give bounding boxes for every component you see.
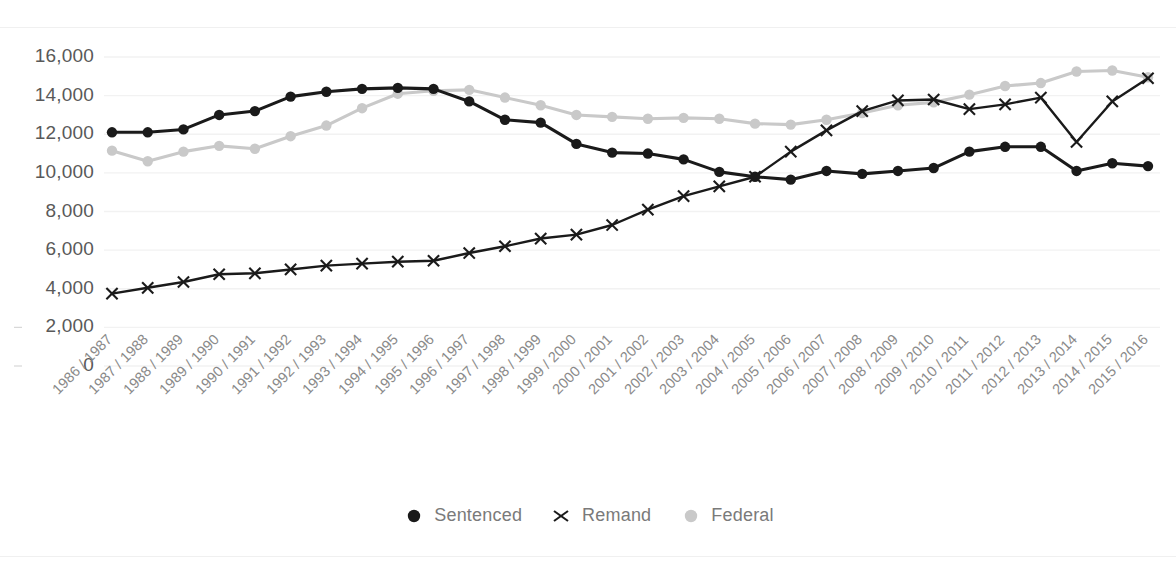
data-point-marker	[678, 113, 688, 123]
gridlines	[104, 57, 1160, 366]
data-point-marker	[821, 115, 831, 125]
data-point-marker	[857, 169, 867, 179]
data-point-marker	[214, 141, 224, 151]
legend-item-sentenced[interactable]: Sentenced	[402, 505, 522, 526]
data-point-marker	[821, 166, 831, 176]
data-point-marker	[321, 87, 331, 97]
chart-container: 16,00014,00012,00010,0008,0006,0004,0002…	[0, 0, 1176, 575]
data-point-marker	[607, 147, 617, 157]
data-point-marker	[678, 154, 688, 164]
data-point-marker	[714, 167, 724, 177]
data-point-marker	[500, 115, 510, 125]
data-point-marker	[1036, 78, 1046, 88]
data-point-marker	[107, 127, 117, 137]
data-point-marker	[750, 118, 760, 128]
data-point-marker	[178, 146, 188, 156]
data-point-marker	[1000, 142, 1010, 152]
data-point-marker	[1071, 136, 1082, 147]
data-point-marker	[1071, 166, 1081, 176]
data-point-marker	[178, 124, 188, 134]
data-point-marker	[1036, 142, 1046, 152]
data-point-marker	[643, 148, 653, 158]
legend-item-remand[interactable]: Remand	[550, 505, 651, 526]
data-point-marker	[214, 110, 224, 120]
legend-item-federal[interactable]: Federal	[679, 505, 773, 526]
legend-label: Sentenced	[434, 505, 522, 526]
data-point-marker	[1000, 81, 1010, 91]
data-point-marker	[714, 114, 724, 124]
data-point-marker	[250, 144, 260, 154]
data-point-marker	[250, 106, 260, 116]
data-point-marker	[571, 139, 581, 149]
data-point-marker	[464, 96, 474, 106]
data-point-marker	[928, 163, 938, 173]
data-point-marker	[964, 89, 974, 99]
data-point-marker	[607, 112, 617, 122]
data-point-marker	[750, 172, 760, 182]
data-point-marker	[535, 117, 545, 127]
data-point-marker	[143, 156, 153, 166]
data-point-marker	[1071, 66, 1081, 76]
data-point-marker	[143, 127, 153, 137]
data-point-marker	[571, 110, 581, 120]
data-point-marker	[535, 100, 545, 110]
data-point-marker	[1107, 96, 1118, 107]
legend-label: Federal	[711, 505, 773, 526]
data-point-marker	[321, 120, 331, 130]
data-point-marker	[428, 84, 438, 94]
data-point-marker	[357, 103, 367, 113]
legend-label: Remand	[582, 505, 651, 526]
data-point-marker	[357, 84, 367, 94]
data-point-marker	[1143, 161, 1153, 171]
legend-circle-marker-icon	[402, 507, 428, 525]
data-point-marker	[285, 91, 295, 101]
data-point-marker	[1107, 65, 1117, 75]
data-point-marker	[643, 114, 653, 124]
series-line	[112, 78, 1148, 293]
series-federal	[107, 65, 1153, 166]
data-point-marker	[464, 85, 474, 95]
data-point-marker	[786, 174, 796, 184]
legend-circle-marker-icon	[679, 507, 705, 525]
data-point-marker	[785, 146, 796, 157]
plot-area	[0, 0, 1176, 575]
data-point-marker	[500, 92, 510, 102]
data-point-marker	[786, 119, 796, 129]
data-point-marker	[642, 204, 653, 215]
data-point-marker	[893, 166, 903, 176]
data-point-marker	[393, 83, 403, 93]
data-point-marker	[107, 145, 117, 155]
legend-x-marker-icon	[550, 507, 576, 525]
data-point-marker	[285, 131, 295, 141]
chart-legend: SentencedRemandFederal	[0, 505, 1176, 526]
data-point-marker	[964, 146, 974, 156]
data-point-marker	[1107, 158, 1117, 168]
